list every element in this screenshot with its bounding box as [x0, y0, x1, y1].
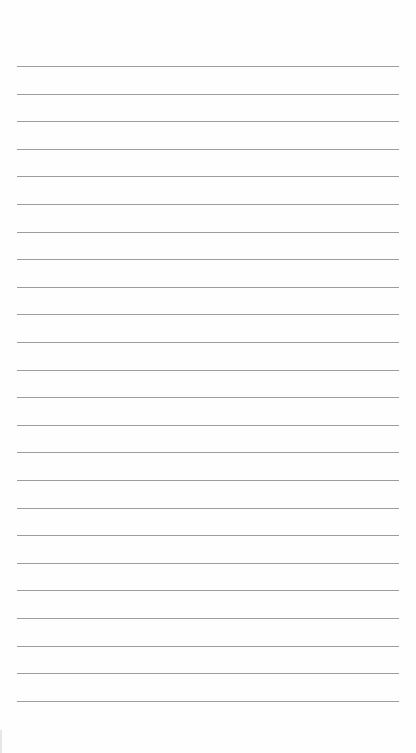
ruled-line [17, 121, 399, 122]
ruled-line [17, 646, 399, 647]
ruled-line [17, 452, 399, 453]
ruled-line [17, 176, 399, 177]
ruled-line [17, 94, 399, 95]
ruled-line [17, 232, 399, 233]
ruled-line [17, 701, 399, 702]
ruled-line [17, 149, 399, 150]
notepad-page [0, 0, 416, 753]
ruled-line [17, 370, 399, 371]
ruled-line [17, 673, 399, 674]
ruled-line [17, 287, 399, 288]
ruled-line [17, 425, 399, 426]
ruled-line [17, 66, 399, 67]
ruled-line [17, 480, 399, 481]
ruled-line [17, 204, 399, 205]
ruled-line [17, 259, 399, 260]
ruled-line [17, 314, 399, 315]
ruled-line [17, 342, 399, 343]
ruled-line [17, 508, 399, 509]
ruled-line [17, 618, 399, 619]
ruled-line [17, 563, 399, 564]
ruled-line [17, 590, 399, 591]
ruled-line [17, 397, 399, 398]
paper-edge [0, 730, 2, 753]
ruled-line [17, 535, 399, 536]
